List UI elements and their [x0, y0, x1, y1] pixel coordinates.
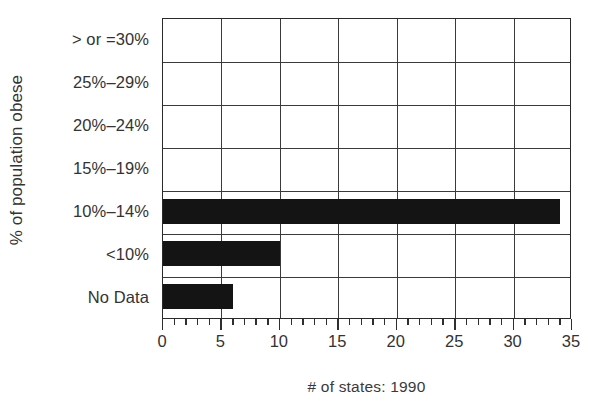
x-tick-minor	[361, 319, 362, 325]
x-tick-minor	[407, 319, 408, 325]
x-tick-major	[162, 319, 163, 330]
bar-row	[163, 233, 570, 276]
x-tick-minor	[501, 319, 502, 325]
bar-row	[163, 275, 570, 318]
x-tick-minor	[267, 319, 268, 325]
x-tick-minor	[326, 319, 327, 325]
x-tick-minor	[291, 319, 292, 325]
y-tick-label: 10%–14%	[34, 190, 158, 233]
bars-layer	[163, 19, 570, 318]
x-tick-minor	[466, 319, 467, 325]
y-axis-title-text: % of population obese	[7, 75, 27, 245]
x-tick-label: 35	[562, 332, 580, 351]
x-tick-major	[279, 319, 280, 330]
x-tick-label: 5	[216, 332, 225, 351]
bar-series-value	[163, 199, 560, 224]
x-tick-minor	[349, 319, 350, 325]
x-tick-minor	[478, 319, 479, 325]
bar-series-value	[163, 284, 233, 309]
x-tick-label: 0	[157, 332, 166, 351]
x-tick-label: 15	[328, 332, 346, 351]
x-tick-label: 10	[270, 332, 288, 351]
x-tick-minor	[232, 319, 233, 325]
x-tick-minor	[197, 319, 198, 325]
bar-row	[163, 190, 570, 233]
x-tick-minor	[314, 319, 315, 325]
y-axis-tick-labels: > or =30% 25%–29% 20%–24% 15%–19% 10%–14…	[34, 18, 158, 319]
x-tick-minor	[548, 319, 549, 325]
x-tick-minor	[489, 319, 490, 325]
x-tick-minor	[559, 319, 560, 325]
x-tick-major	[337, 319, 338, 330]
x-tick-minor	[209, 319, 210, 325]
x-tick-major	[513, 319, 514, 330]
x-tick-label: 25	[445, 332, 463, 351]
y-tick-label: 15%–19%	[34, 147, 158, 190]
x-tick-label: 30	[503, 332, 521, 351]
bar-row	[163, 147, 570, 190]
x-tick-major	[396, 319, 397, 330]
x-tick-minor	[174, 319, 175, 325]
x-axis-tick-labels: 05101520253035	[162, 332, 571, 358]
plot-area	[162, 18, 571, 319]
x-axis-title: # of states: 1990	[162, 378, 571, 396]
x-tick-major	[454, 319, 455, 330]
x-tick-major	[571, 319, 572, 330]
bar-row	[163, 104, 570, 147]
x-tick-minor	[536, 319, 537, 325]
y-tick-label: No Data	[34, 276, 158, 319]
x-tick-major	[220, 319, 221, 330]
bar-row	[163, 62, 570, 105]
y-tick-label: <10%	[34, 233, 158, 276]
x-tick-minor	[185, 319, 186, 325]
bar-row	[163, 19, 570, 62]
x-tick-minor	[524, 319, 525, 325]
x-tick-minor	[431, 319, 432, 325]
x-tick-label: 20	[387, 332, 405, 351]
bar-chart: % of population obese > or =30% 25%–29% …	[0, 0, 596, 413]
y-tick-label: > or =30%	[34, 18, 158, 61]
x-tick-minor	[244, 319, 245, 325]
x-tick-minor	[372, 319, 373, 325]
x-tick-minor	[419, 319, 420, 325]
x-tick-minor	[302, 319, 303, 325]
bar-series-value	[163, 241, 280, 266]
x-tick-minor	[255, 319, 256, 325]
x-tick-minor	[384, 319, 385, 325]
x-axis-ticks	[162, 319, 571, 331]
y-tick-label: 20%–24%	[34, 104, 158, 147]
y-tick-label: 25%–29%	[34, 61, 158, 104]
x-tick-minor	[442, 319, 443, 325]
y-axis-title: % of population obese	[0, 0, 34, 320]
